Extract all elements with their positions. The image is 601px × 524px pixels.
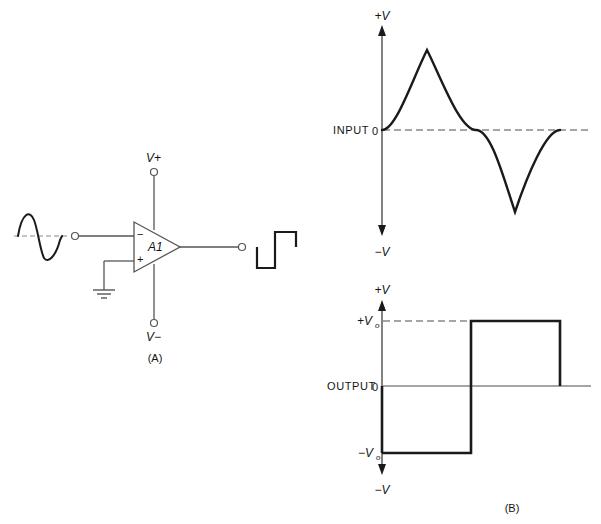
- noninverting-input-sign: +: [137, 253, 143, 265]
- output-positive-level-text: +V: [357, 314, 373, 328]
- panel-a-caption: (A): [148, 352, 163, 364]
- output-axis-up-arrowhead: [378, 300, 386, 311]
- output-square-trace: [382, 321, 560, 453]
- output-positive-level-subscript: o: [375, 321, 380, 330]
- input-axis-down-arrowhead: [378, 225, 386, 236]
- negative-supply-label: V−: [146, 330, 161, 344]
- output-axis-bottom-label: −V: [374, 483, 390, 497]
- output-axis-down-arrowhead: [378, 464, 386, 475]
- panel-b-caption: (B): [505, 502, 520, 514]
- output-axis-top-label: +V: [374, 283, 390, 297]
- input-axis-top-label: +V: [374, 9, 390, 23]
- input-axis-bottom-label: −V: [374, 245, 390, 259]
- figure-root: A1 − + V+ V− (A): [0, 0, 601, 524]
- positive-supply-node: [151, 169, 158, 176]
- opamp-designator: A1: [147, 240, 163, 254]
- output-negative-level-text: −V: [358, 446, 374, 460]
- output-zero-tick-label: 0: [372, 381, 378, 393]
- output-waveform-chart: +V −V +V o OUTPUT 0 −V o (B): [327, 283, 591, 514]
- input-axis-up-arrowhead: [378, 25, 386, 36]
- input-sine-waveform-icon: [14, 214, 68, 260]
- output-terminal-node: [239, 244, 246, 251]
- output-negative-level-label: −V o: [358, 446, 381, 462]
- panel-a-schematic: A1 − + V+ V− (A): [14, 151, 296, 364]
- input-zero-tick-label: 0: [372, 125, 378, 137]
- input-terminal-node: [72, 233, 79, 240]
- input-chart-title: INPUT: [333, 124, 369, 136]
- positive-supply-label: V+: [146, 151, 161, 165]
- square-wave-path: [257, 232, 296, 268]
- output-negative-level-subscript: o: [376, 453, 381, 462]
- input-waveform-chart: +V −V INPUT 0: [333, 9, 591, 259]
- ground-symbol: [93, 290, 115, 298]
- output-positive-level-label: +V o: [357, 314, 380, 330]
- op-amp-comparator-figure: A1 − + V+ V− (A): [0, 0, 601, 524]
- negative-supply-node: [151, 320, 158, 327]
- output-chart-title: OUTPUT: [327, 380, 376, 392]
- sine-wave-path: [18, 214, 62, 260]
- input-sine-trace: [382, 50, 560, 212]
- inverting-input-sign: −: [137, 228, 143, 240]
